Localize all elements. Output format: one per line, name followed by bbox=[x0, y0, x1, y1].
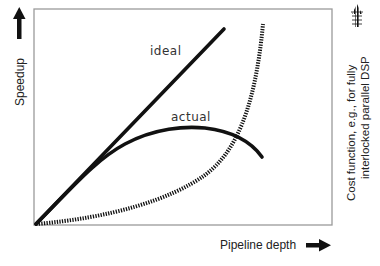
speedup-vs-pipeline-depth-chart: ideal actual Speedup Pipeline depth Cost… bbox=[0, 0, 380, 266]
actual-label: actual bbox=[171, 110, 211, 124]
y2-axis-label-line1: Cost function, e.g., for fully bbox=[345, 65, 357, 201]
ideal-label: ideal bbox=[150, 44, 182, 58]
y-axis-label: Speedup bbox=[13, 58, 27, 106]
actual-curve bbox=[36, 127, 262, 224]
y2-axis-label-line2: interlocked parallel DSP bbox=[359, 56, 371, 179]
x-axis-arrow-icon bbox=[306, 239, 331, 252]
y-axis-arrow-icon bbox=[13, 7, 26, 39]
x-axis-label: Pipeline depth bbox=[220, 238, 296, 252]
y2-axis-hatched-arrow-icon bbox=[351, 4, 363, 27]
